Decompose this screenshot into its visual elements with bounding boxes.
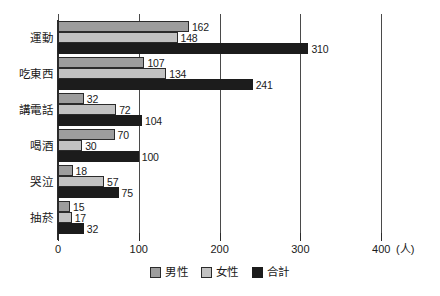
bar-value-喝酒-女性: 30 [85, 141, 96, 152]
bar-value-吃東西-合計: 241 [256, 80, 273, 91]
tick-top-300 [300, 14, 301, 21]
bar-value-運動-女性: 148 [181, 33, 198, 44]
category-label-wrap-運動: 運動 [0, 32, 53, 44]
category-label-wrap-哭泣: 哭泣 [0, 176, 53, 188]
x-axis-unit-label: (人) [396, 243, 414, 256]
legend-item-male: 男性 [150, 266, 188, 278]
category-label-wrap-講電話: 講電話 [0, 104, 53, 116]
category-label-運動: 運動 [1, 32, 53, 44]
category-label-吃東西: 吃東西 [1, 68, 53, 80]
tick-bottom-100 [139, 233, 140, 241]
bar-value-喝酒-合計: 100 [142, 152, 159, 163]
bar-哭泣-合計 [58, 187, 119, 198]
bar-value-運動-合計: 310 [311, 44, 328, 55]
tick-top-200 [220, 14, 221, 21]
bar-講電話-女性 [58, 104, 116, 115]
bar-value-吃東西-男性: 107 [147, 58, 164, 69]
bar-抽菸-合計 [58, 223, 84, 234]
tick-top-400 [381, 14, 382, 21]
tick-bottom-300 [300, 233, 301, 241]
x-tick-label-0: 0 [55, 243, 61, 256]
legend: 男性 女性 合計 [0, 266, 440, 278]
bar-哭泣-男性 [58, 165, 73, 176]
category-label-講電話: 講電話 [1, 104, 53, 116]
bar-value-哭泣-合計: 75 [122, 188, 133, 199]
bar-抽菸-男性 [58, 201, 70, 212]
bar-value-吃東西-女性: 134 [169, 69, 186, 80]
bar-value-講電話-合計: 104 [145, 116, 162, 127]
bar-value-喝酒-男性: 70 [118, 130, 129, 141]
legend-label-male: 男性 [165, 266, 188, 278]
tick-bottom-400 [381, 233, 382, 241]
x-tick-label-100: 100 [130, 243, 148, 256]
category-label-wrap-抽菸: 抽菸 [0, 212, 53, 224]
legend-label-female: 女性 [216, 266, 239, 278]
bar-value-運動-男性: 162 [192, 22, 209, 33]
bar-value-抽菸-女性: 17 [75, 213, 86, 224]
category-label-抽菸: 抽菸 [1, 212, 53, 224]
bar-吃東西-女性 [58, 68, 166, 79]
gridline-400 [381, 20, 382, 240]
x-tick-label-200: 200 [210, 243, 228, 256]
bar-吃東西-男性 [58, 57, 144, 68]
bar-講電話-男性 [58, 93, 84, 104]
x-tick-label-300: 300 [291, 243, 309, 256]
male-swatch-icon [150, 267, 161, 278]
bar-value-抽菸-合計: 32 [87, 224, 98, 235]
bar-喝酒-男性 [58, 129, 115, 140]
legend-item-total: 合計 [252, 266, 290, 278]
legend-item-female: 女性 [201, 266, 239, 278]
category-label-哭泣: 哭泣 [1, 176, 53, 188]
bar-value-哭泣-男性: 18 [76, 166, 87, 177]
plot-area: 1621483101071342413272104703010018577515… [0, 0, 440, 296]
bar-value-講電話-女性: 72 [119, 105, 130, 116]
tick-top-100 [139, 14, 140, 21]
bar-抽菸-女性 [58, 212, 72, 223]
category-label-wrap-喝酒: 喝酒 [0, 140, 53, 152]
bar-value-哭泣-女性: 57 [107, 177, 118, 188]
bar-哭泣-女性 [58, 176, 104, 187]
category-label-喝酒: 喝酒 [1, 140, 53, 152]
category-label-wrap-吃東西: 吃東西 [0, 68, 53, 80]
legend-label-total: 合計 [267, 266, 290, 278]
bar-喝酒-女性 [58, 140, 82, 151]
x-tick-label-400: 400 [372, 243, 390, 256]
bar-喝酒-合計 [58, 151, 139, 162]
total-swatch-icon [252, 267, 263, 278]
bar-講電話-合計 [58, 115, 142, 126]
female-swatch-icon [201, 267, 212, 278]
bar-吃東西-合計 [58, 79, 253, 90]
bar-chart: 1621483101071342413272104703010018577515… [0, 0, 440, 296]
bar-運動-男性 [58, 21, 189, 32]
tick-bottom-200 [220, 233, 221, 241]
bar-運動-合計 [58, 43, 308, 54]
bar-運動-女性 [58, 32, 178, 43]
bar-value-講電話-男性: 32 [87, 94, 98, 105]
bar-value-抽菸-男性: 15 [73, 202, 84, 213]
